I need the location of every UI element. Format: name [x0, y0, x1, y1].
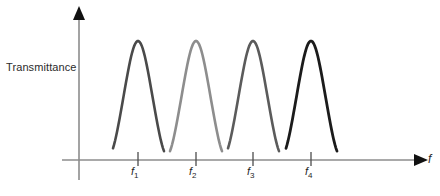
x-tick-label-f2: f2 [189, 165, 197, 177]
x-tick-label-subscript: 4 [308, 171, 312, 180]
passband-curves [113, 41, 337, 151]
x-tick-label-subscript: 3 [250, 171, 254, 180]
x-tick-label-f4: f4 [305, 165, 313, 177]
passband-curve-f3 [228, 41, 279, 151]
x-axis-arrow-icon [414, 154, 428, 166]
transmittance-spectrum-figure: Transmittance f f1 f2 f3 f4 [0, 0, 440, 196]
passband-curve-f2 [170, 41, 222, 151]
y-axis-title: Transmittance [6, 61, 77, 73]
x-axis-ticks [138, 152, 311, 166]
x-tick-label-subscript: 1 [134, 171, 138, 180]
x-tick-label-subscript: 2 [192, 171, 196, 180]
y-axis-arrow-icon [73, 6, 85, 20]
passband-curve-f1 [113, 41, 164, 151]
passband-curve-f4 [286, 41, 337, 151]
plot-canvas [0, 0, 440, 196]
x-tick-label-f3: f3 [247, 165, 255, 177]
x-axis-title: f [428, 152, 431, 166]
x-tick-label-f1: f1 [131, 165, 139, 177]
